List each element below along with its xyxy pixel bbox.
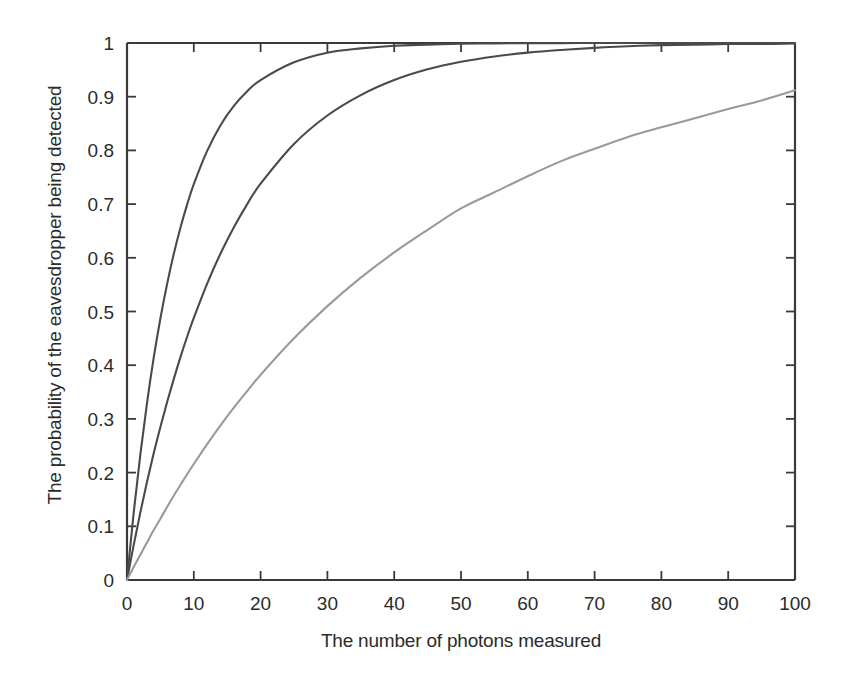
y-tick-label: 0.3 [88, 409, 114, 430]
y-tick-label: 0.5 [88, 302, 114, 323]
x-tick-label: 50 [450, 593, 471, 614]
y-tick-label: 0.4 [88, 355, 115, 376]
y-tick-label: 1 [103, 33, 114, 54]
x-tick-label: 70 [584, 593, 605, 614]
y-tick-label: 0.7 [88, 194, 114, 215]
x-tick-label: 10 [183, 593, 204, 614]
y-tick-label: 0 [103, 570, 114, 591]
plot-area: 00.10.20.30.40.50.60.70.80.91 0102030405… [0, 0, 847, 678]
y-tick-label: 0.9 [88, 87, 114, 108]
x-tick-label: 60 [517, 593, 538, 614]
series-line-middle-curve [127, 44, 795, 580]
x-tick-label: 40 [384, 593, 405, 614]
y-tick-label: 0.8 [88, 140, 114, 161]
x-tick-label: 0 [122, 593, 133, 614]
line-chart-svg: 00.10.20.30.40.50.60.70.80.91 0102030405… [0, 0, 847, 678]
axes [127, 43, 795, 580]
x-tick-label: 80 [651, 593, 672, 614]
x-tick-label: 30 [317, 593, 338, 614]
tick-marks [127, 43, 795, 580]
y-tick-label: 0.6 [88, 248, 114, 269]
x-tick-label: 20 [250, 593, 271, 614]
y-tick-labels: 00.10.20.30.40.50.60.70.80.91 [88, 33, 115, 591]
series-line-steep-curve [127, 43, 795, 580]
x-tick-label: 90 [718, 593, 739, 614]
y-tick-label: 0.1 [88, 516, 114, 537]
series-line-shallow-curve [127, 90, 795, 580]
x-tick-label: 100 [779, 593, 811, 614]
y-tick-label: 0.2 [88, 463, 114, 484]
x-tick-labels: 0102030405060708090100 [122, 593, 811, 614]
chart-figure: The probability of the eavesdropper bein… [0, 0, 847, 678]
data-series [127, 43, 795, 580]
